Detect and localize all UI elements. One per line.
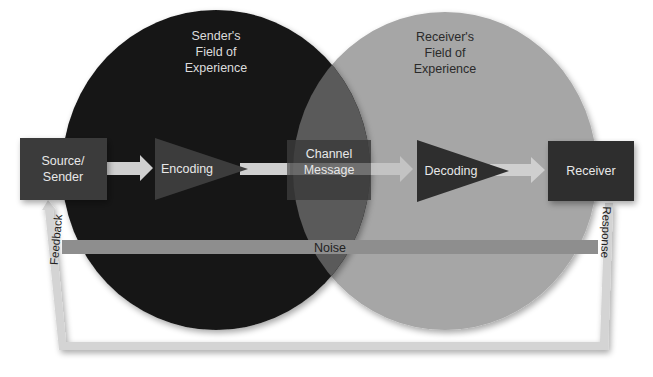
- receiver-field-line-1: Receiver's: [416, 30, 474, 44]
- source-label-line-1: Source/: [41, 154, 85, 168]
- channel-label-line-2: Message: [304, 163, 355, 177]
- response-label: Response: [599, 206, 613, 258]
- noise-label: Noise: [314, 241, 346, 255]
- receiver-field-line-2: Field of: [425, 46, 467, 60]
- channel-message-node: Channel Message: [287, 140, 371, 200]
- source-sender-node: Source/ Sender: [20, 138, 107, 200]
- sender-field-line-1: Sender's: [192, 29, 241, 43]
- source-label-line-2: Sender: [43, 170, 83, 184]
- sender-field-line-2: Field of: [196, 45, 238, 59]
- source-sender-box: [20, 138, 107, 200]
- sender-field-line-3: Experience: [185, 61, 248, 75]
- receiver-field-line-3: Experience: [414, 62, 477, 76]
- channel-label-line-1: Channel: [306, 147, 353, 161]
- encoding-label: Encoding: [161, 162, 213, 176]
- receiver-node: Receiver: [548, 141, 634, 201]
- communication-model-diagram: Noise Sender's Field of Experience Recei…: [0, 0, 653, 377]
- receiver-label: Receiver: [566, 164, 615, 178]
- decoding-label: Decoding: [425, 164, 478, 178]
